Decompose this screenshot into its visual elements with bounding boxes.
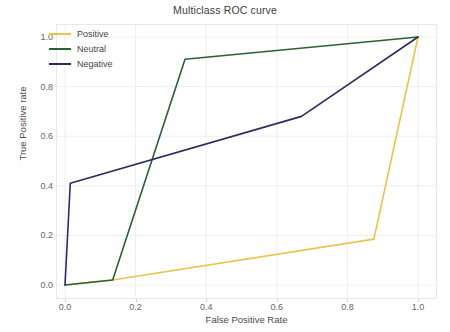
x-tick-mark [136, 299, 137, 302]
x-tick-label: 0.2 [116, 302, 156, 312]
y-tick-label: 0.4 [27, 181, 53, 191]
chart-title: Multiclass ROC curve [0, 4, 450, 16]
roc-curve-negative [65, 37, 418, 285]
x-tick-label: 0.0 [45, 302, 85, 312]
roc-curve-neutral [65, 37, 418, 285]
x-tick-label: 0.4 [186, 302, 226, 312]
legend-item-negative[interactable]: Negative [49, 58, 113, 70]
legend-label: Positive [77, 29, 109, 39]
plot-area [65, 37, 418, 285]
x-tick-mark [277, 299, 278, 302]
x-tick-label: 1.0 [398, 302, 438, 312]
chart-figure: Multiclass ROC curve 0.00.20.40.60.81.0 … [0, 0, 450, 332]
x-tick-mark [65, 299, 66, 302]
x-tick-label: 0.8 [327, 302, 367, 312]
legend-label: Neutral [77, 44, 106, 54]
y-tick-label: 0.6 [27, 131, 53, 141]
x-tick-mark [347, 299, 348, 302]
chart-legend: PositiveNeutralNegative [49, 26, 113, 72]
legend-item-positive[interactable]: Positive [49, 28, 113, 40]
y-tick-label: 0.8 [27, 82, 53, 92]
roc-curves [65, 37, 418, 285]
y-tick-label: 0.2 [27, 230, 53, 240]
x-axis-label: False Positive Rate [56, 314, 437, 325]
y-axis-label: True Positive rate [17, 64, 28, 184]
x-tick-mark [418, 299, 419, 302]
roc-curve-positive [65, 37, 418, 285]
legend-swatch-neutral [49, 48, 71, 50]
y-tick-label: 0.0 [27, 280, 53, 290]
x-tick-mark [206, 299, 207, 302]
legend-swatch-negative [49, 63, 71, 65]
x-tick-label: 0.6 [257, 302, 297, 312]
legend-item-neutral[interactable]: Neutral [49, 43, 113, 55]
legend-label: Negative [77, 59, 113, 69]
legend-swatch-positive [49, 33, 71, 35]
